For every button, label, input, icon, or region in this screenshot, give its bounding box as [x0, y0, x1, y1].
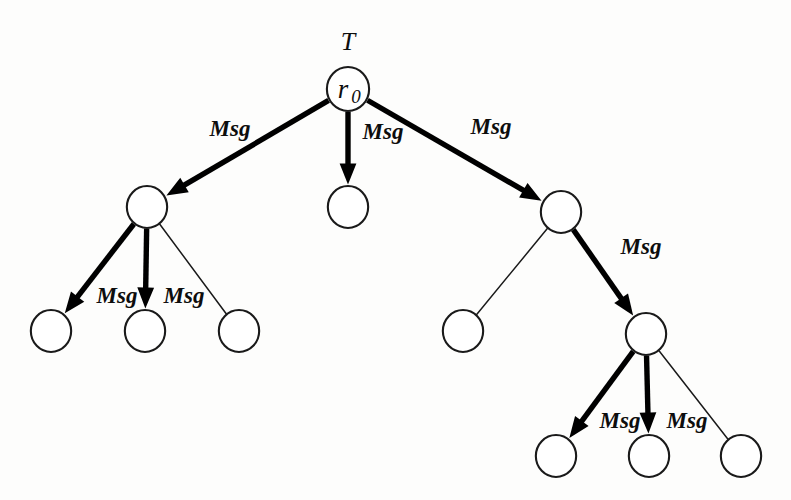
edge-label-msg: Msg — [666, 408, 708, 433]
arrow-head-icon — [340, 164, 357, 185]
node-circle-icon — [219, 310, 259, 352]
right-leaf-idle[interactable] — [443, 310, 483, 352]
bottom-leaf-two[interactable] — [629, 435, 669, 477]
left-branch-node[interactable] — [127, 186, 167, 228]
right-subtree-node[interactable] — [626, 313, 666, 355]
edge-label-msg: Msg — [209, 116, 251, 141]
root-node[interactable]: r0 — [327, 67, 369, 111]
arrow-head-icon — [640, 412, 657, 433]
node-circle-icon — [31, 310, 71, 352]
edge-right-to-idle-leaf — [477, 229, 548, 315]
edge-root-to-left — [166, 100, 328, 195]
arrow-head-icon — [519, 183, 541, 201]
left-leaf-two[interactable] — [125, 310, 165, 352]
node-circle-icon — [629, 435, 669, 477]
node-circle-icon — [626, 313, 666, 355]
diagram-canvas: r0 MsgMsgMsgMsgMsgMsgMsgMsgT — [0, 0, 791, 500]
edges-layer — [65, 100, 728, 439]
node-circle-icon — [125, 310, 165, 352]
edge-label-msg: Msg — [163, 283, 205, 308]
node-label-subscript: 0 — [351, 86, 361, 107]
arrow-head-icon — [137, 287, 154, 308]
edge-left-to-leaf-two — [137, 228, 154, 308]
edge-root-to-middle — [340, 112, 357, 185]
node-label: r — [338, 74, 349, 104]
edge-root-to-right — [367, 100, 541, 200]
edge-subtree-to-leaf-two — [640, 355, 657, 433]
arrow-head-icon — [166, 178, 188, 196]
node-circle-icon — [328, 186, 368, 228]
tree-name-label: T — [341, 27, 357, 56]
middle-branch-node[interactable] — [328, 186, 368, 228]
bottom-leaf-three[interactable] — [721, 435, 761, 477]
node-circle-icon — [541, 191, 581, 233]
node-circle-icon — [127, 186, 167, 228]
edge-label-msg: Msg — [362, 119, 404, 144]
left-leaf-three[interactable] — [219, 310, 259, 352]
tree-diagram-figure: r0 MsgMsgMsgMsgMsgMsgMsgMsgT — [0, 0, 791, 500]
node-circle-icon — [721, 435, 761, 477]
node-circle-icon — [443, 310, 483, 352]
edge-label-msg: Msg — [96, 283, 138, 308]
bottom-leaf-one[interactable] — [536, 435, 576, 477]
edge-label-msg: Msg — [599, 408, 641, 433]
right-branch-node[interactable] — [541, 191, 581, 233]
edge-label-msg: Msg — [470, 114, 512, 139]
left-leaf-one[interactable] — [31, 310, 71, 352]
node-circle-icon — [536, 435, 576, 477]
edge-label-msg: Msg — [620, 234, 662, 259]
